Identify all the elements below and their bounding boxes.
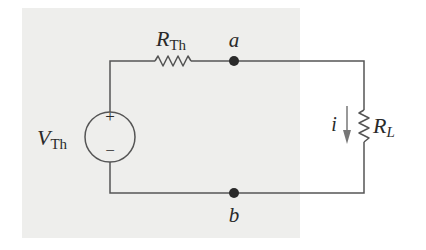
node-b-label: b [229,203,240,227]
bottom-right-wire [110,142,364,193]
top-left-wire [110,61,155,112]
node-b-dot [229,188,239,198]
node-a-label: a [229,28,240,52]
rth-resistor-icon [155,56,191,66]
node-a-dot [229,56,239,66]
circuit-diagram: + − VTh RTh RL i a b [0,0,426,250]
current-label: i [331,113,337,135]
source-minus-sign: − [105,141,115,160]
current-arrow-icon [343,130,351,144]
source-plus-sign: + [105,107,115,126]
vth-label: VTh [37,125,68,152]
rl-resistor-icon [359,110,369,142]
rth-label: RTh [155,26,187,53]
top-right-wire [191,61,364,110]
rl-label: RL [372,113,395,140]
